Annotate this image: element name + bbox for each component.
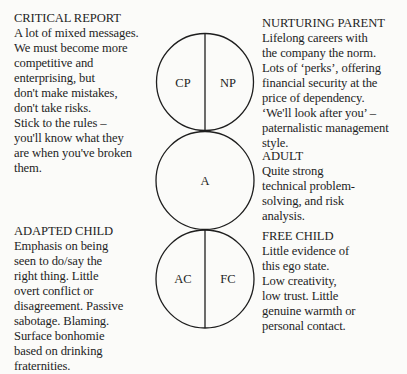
text-line: genuine warmth or [262, 304, 355, 319]
nurturing-parent-description: NURTURING PARENT Lifelong careers with t… [262, 16, 389, 151]
adapted-child-heading: ADAPTED CHILD [14, 224, 123, 239]
text-line: them. [14, 161, 139, 176]
nurturing-parent-heading: NURTURING PARENT [262, 16, 389, 31]
text-line: paternalistic management [262, 121, 389, 136]
adapted-child-description: ADAPTED CHILD Emphasis on being seen to … [14, 224, 123, 374]
text-line: seen to do/say the [14, 254, 123, 269]
critical-parent-description: CRITICAL REPORT A lot of mixed messages.… [14, 11, 139, 176]
text-line: right thing. Little [14, 269, 123, 284]
text-line: Lots of ‘perks’, offering [262, 61, 389, 76]
text-line: disagreement. Passive [14, 299, 123, 314]
text-line: ‘We'll look after you’ – [262, 106, 389, 121]
text-line: Emphasis on being [14, 239, 123, 254]
np-label: NP [220, 76, 236, 90]
text-line: don't take risks. [14, 101, 139, 116]
child-circle: AC FC [156, 230, 254, 328]
text-line: sabotage. Blaming. [14, 314, 123, 329]
text-line: overt conflict or [14, 284, 123, 299]
text-line: are when you've broken [14, 146, 139, 161]
text-line: based on drinking [14, 344, 123, 359]
text-line: Quite strong [262, 164, 355, 179]
adult-circle: A [156, 132, 254, 230]
parent-circle: CP NP [157, 34, 254, 131]
text-line: the company the norm. [262, 46, 389, 61]
a-label: A [200, 174, 209, 188]
free-child-heading: FREE CHILD [262, 229, 355, 244]
text-line: Low creativity, [262, 274, 355, 289]
adult-description: ADULT Quite strong technical problem- so… [262, 149, 355, 224]
text-line: A lot of mixed messages. [14, 26, 139, 41]
fc-label: FC [220, 272, 235, 286]
text-line: Lifelong careers with [262, 31, 389, 46]
text-line: financial security at the [262, 76, 389, 91]
free-child-description: FREE CHILD Little evidence of this ego s… [262, 229, 355, 334]
text-line: low trust. Little [262, 289, 355, 304]
text-line: enterprising, but [14, 71, 139, 86]
text-line: personal contact. [262, 319, 355, 334]
text-line: Stick to the rules – [14, 116, 139, 131]
adult-heading: ADULT [262, 149, 355, 164]
text-line: analysis. [262, 209, 355, 224]
text-line: competitive and [14, 56, 139, 71]
text-line: fraternities. [14, 359, 123, 374]
critical-parent-heading: CRITICAL REPORT [14, 11, 139, 26]
text-line: this ego state. [262, 259, 355, 274]
ac-label: AC [174, 272, 191, 286]
cp-label: CP [175, 76, 190, 90]
text-line: solving, and risk [262, 194, 355, 209]
text-line: price of dependency. [262, 91, 389, 106]
text-line: Surface bonhomie [14, 329, 123, 344]
text-line: you'll know what they [14, 131, 139, 146]
text-line: don't make mistakes, [14, 86, 139, 101]
text-line: We must become more [14, 41, 139, 56]
text-line: technical problem- [262, 179, 355, 194]
text-line: Little evidence of [262, 244, 355, 259]
